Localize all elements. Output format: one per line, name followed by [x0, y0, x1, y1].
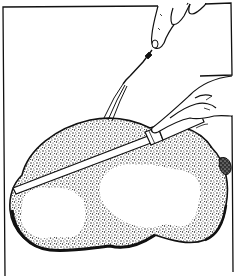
cut-face-left: [21, 187, 85, 238]
illustration-canvas: [0, 0, 237, 278]
carving-fork: [104, 50, 152, 121]
upper-hand: [152, 3, 206, 48]
carving-illustration: [0, 0, 237, 278]
